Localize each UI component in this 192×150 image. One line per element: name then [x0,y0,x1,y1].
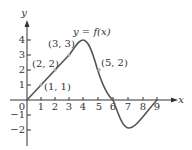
x-axis-arrow-icon [171,98,178,103]
y-ticks [27,40,31,130]
svg-text:8: 8 [140,101,146,112]
y-axis-label: y [20,7,27,18]
function-label: y = f(x) [72,26,111,37]
svg-text:−2: −2 [10,124,25,135]
point-label-3-3: (3, 3) [48,38,75,49]
svg-text:2: 2 [52,101,58,112]
y-axis-arrow-icon [25,20,30,27]
svg-text:4: 4 [19,34,25,45]
svg-text:3: 3 [19,49,25,60]
x-tick-labels: 1 2 3 4 5 6 7 8 9 [38,101,160,112]
x-axis-label: x [178,94,184,105]
point-label-5-2: (5, 2) [101,57,128,68]
y-tick-labels: 4 3 2 1 −1 −2 [10,34,25,135]
point-label-1-1: (1, 1) [44,81,71,92]
svg-text:3: 3 [66,101,72,112]
function-graph: 1 2 3 4 5 6 7 8 9 4 3 2 1 −1 −2 0 x y (1… [0,0,192,150]
svg-text:2: 2 [19,64,25,75]
svg-text:1: 1 [19,79,25,90]
point-label-2-2: (2, 2) [32,58,59,69]
svg-text:4: 4 [80,101,86,112]
origin-label: 0 [19,101,25,112]
svg-text:5: 5 [96,101,102,112]
svg-text:7: 7 [125,101,131,112]
svg-text:1: 1 [38,101,44,112]
